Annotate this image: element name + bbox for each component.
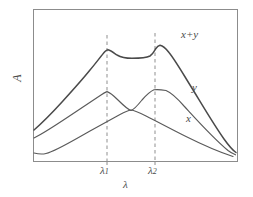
x-axis-label: λ [123,179,128,190]
plot-frame [34,10,238,162]
y-axis-label: A [11,74,23,81]
tick-label-lambda-2-subscript: 2 [153,167,157,176]
plot-canvas [0,0,253,197]
figure-container: x+y y x λ1 λ2 λ A [0,0,253,197]
curve-label-x-plus-y: x+y [181,29,198,40]
tick-label-lambda-2: λ2 [148,165,157,176]
curve-label-y: y [192,82,197,93]
tick-label-lambda-1-subscript: 1 [105,167,109,176]
curve-label-x: x [186,113,191,124]
tick-label-lambda-1: λ1 [100,165,109,176]
